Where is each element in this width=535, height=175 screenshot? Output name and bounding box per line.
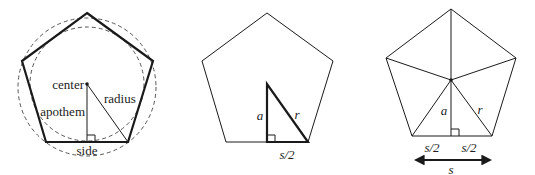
spoke-bottom-right [451,80,492,136]
regular-pentagon-diagram: center radius apothem side a r s/2 a r s… [0,0,535,175]
side-label: side [77,143,98,158]
half-side-right-label: s/2 [461,140,477,155]
center-point [449,78,453,82]
panel-triangulated-pentagon: a r s/2 s/2 s [386,9,516,175]
spoke-left [386,58,451,80]
spoke-right [451,58,516,80]
right-angle-marker [451,129,459,136]
radius-r-label: r [294,107,300,122]
panel-right-triangle: a r s/2 [202,13,333,162]
side-s-label: s [448,162,453,175]
half-side-label: s/2 [279,147,295,162]
apothem-a-label: a [257,108,264,123]
apothem-a-label: a [441,103,448,118]
half-side-left-label: s/2 [424,140,440,155]
panel-pentagon-parts: center radius apothem side [18,13,156,158]
radius-label: radius [104,91,136,106]
apothem-label: apothem [40,104,85,119]
radius-r-label: r [477,102,483,117]
right-triangle [267,84,308,142]
center-point [85,82,89,86]
center-label: center [52,77,84,92]
